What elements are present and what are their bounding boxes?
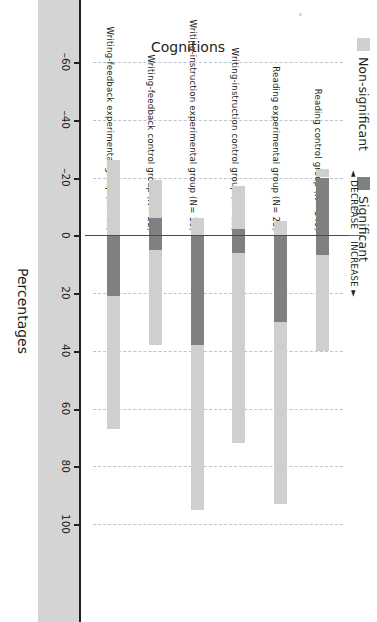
axis-tick-label: –60	[60, 53, 72, 72]
table-row	[107, 62, 120, 524]
bar-segment-significant-increase	[316, 235, 329, 255]
axis-tick	[74, 524, 81, 526]
plot-area	[93, 62, 343, 524]
axis-tick-label: 60	[60, 402, 72, 415]
legend-swatch-non-significant	[357, 38, 370, 51]
axis-tick	[74, 235, 81, 237]
bar-segment-nonsignificant-decrease	[232, 186, 245, 229]
axis-tick	[74, 466, 81, 468]
axis-tick	[74, 178, 81, 180]
axis-tick-label: 80	[60, 460, 72, 473]
table-row	[232, 62, 245, 524]
increase-annotation: INCREASE ►	[349, 241, 359, 297]
axis-tick-label: 20	[60, 286, 72, 299]
bar-segment-nonsignificant-increase	[274, 322, 287, 504]
bar-segment-significant-decrease	[316, 178, 329, 236]
decrease-annotation: ◄ DECREASE	[349, 170, 359, 229]
bar-segment-nonsignificant-decrease	[316, 169, 329, 178]
table-row	[316, 62, 329, 524]
gridline	[93, 466, 343, 467]
gridline	[93, 120, 343, 121]
bar-segment-nonsignificant-decrease	[107, 160, 120, 235]
axis-tick-label: 100	[60, 514, 72, 534]
axis-tick	[74, 293, 81, 295]
axis-tick-label: 40	[60, 344, 72, 357]
table-row	[191, 62, 204, 524]
bar-segment-significant-increase	[191, 235, 204, 345]
gridline	[93, 351, 343, 352]
value-axis-band	[38, 0, 80, 622]
bar-segment-nonsignificant-increase	[149, 250, 162, 345]
plot-wrapper: Non-significant Significant ◄ DECREASE I…	[0, 0, 377, 622]
bar-segment-nonsignificant-increase	[232, 253, 245, 444]
bar-segment-nonsignificant-increase	[107, 296, 120, 429]
gridline	[93, 62, 343, 63]
value-axis-line	[79, 0, 81, 622]
bar-segment-nonsignificant-decrease	[191, 218, 204, 235]
table-row	[149, 62, 162, 524]
gridline	[93, 409, 343, 410]
bar-segment-significant-increase	[149, 235, 162, 249]
axis-tick-label: –20	[60, 168, 72, 187]
gridline	[93, 293, 343, 294]
legend-label-non-significant: Non-significant	[356, 57, 371, 151]
artifact-speck	[299, 13, 302, 16]
bar-segment-significant-increase	[107, 235, 120, 296]
bar-segment-nonsignificant-increase	[316, 255, 329, 350]
axis-tick-label: –40	[60, 110, 72, 129]
bar-segment-significant-increase	[232, 235, 245, 252]
bar-segment-significant-decrease	[149, 218, 162, 235]
axis-tick-label: 0	[60, 232, 72, 239]
gridline	[93, 178, 343, 179]
axis-tick	[74, 409, 81, 411]
bar-segment-nonsignificant-increase	[191, 345, 204, 510]
bar-segment-significant-increase	[274, 235, 287, 322]
gridline	[93, 524, 343, 525]
chart-figure: Non-significant Significant ◄ DECREASE I…	[0, 0, 377, 622]
legend-item-non-significant: Non-significant	[356, 38, 371, 151]
table-row	[274, 62, 287, 524]
axis-tick	[74, 62, 81, 64]
axis-tick	[74, 351, 81, 353]
value-axis-title: Percentages	[15, 0, 31, 622]
axis-tick	[74, 120, 81, 122]
bar-segment-nonsignificant-decrease	[149, 180, 162, 218]
bar-segment-nonsignificant-decrease	[274, 221, 287, 235]
zero-line	[85, 235, 349, 236]
